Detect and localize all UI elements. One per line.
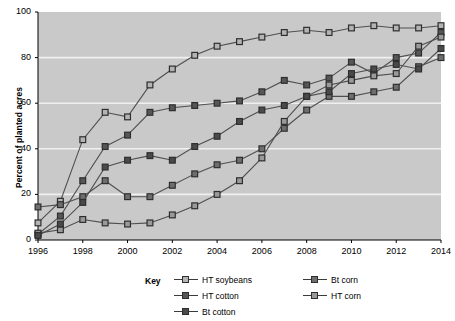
data-point bbox=[259, 155, 265, 161]
data-point bbox=[147, 109, 153, 115]
data-point bbox=[192, 52, 198, 58]
data-point bbox=[281, 78, 287, 84]
data-point bbox=[349, 59, 355, 65]
data-point bbox=[125, 157, 131, 163]
data-point bbox=[371, 89, 377, 95]
data-point bbox=[326, 75, 332, 81]
data-point bbox=[214, 100, 220, 106]
data-point bbox=[416, 66, 422, 72]
data-point bbox=[147, 153, 153, 159]
data-point bbox=[125, 132, 131, 138]
data-point bbox=[393, 71, 399, 77]
data-point bbox=[169, 66, 175, 72]
data-point bbox=[259, 107, 265, 113]
data-point bbox=[57, 213, 63, 219]
data-point bbox=[35, 233, 41, 239]
data-point bbox=[102, 178, 108, 184]
data-point bbox=[326, 30, 332, 36]
data-point bbox=[349, 93, 355, 99]
data-point bbox=[80, 178, 86, 184]
legend-marker-icon bbox=[303, 274, 327, 285]
data-point bbox=[393, 25, 399, 31]
chart-legend: Key HT soybeansBt cornHT cottonHT cornBt… bbox=[130, 272, 430, 318]
data-point bbox=[237, 39, 243, 45]
data-point bbox=[169, 157, 175, 163]
data-point bbox=[326, 82, 332, 88]
data-point bbox=[438, 34, 444, 40]
data-point bbox=[102, 220, 108, 226]
legend-item-ht-corn[interactable]: HT corn bbox=[303, 289, 361, 302]
data-point bbox=[80, 217, 86, 223]
data-point bbox=[393, 84, 399, 90]
chart-figure: Percent of planted acres 020406080100 19… bbox=[0, 0, 455, 321]
data-point bbox=[349, 25, 355, 31]
data-point bbox=[349, 78, 355, 84]
data-point bbox=[147, 220, 153, 226]
data-point bbox=[125, 221, 131, 227]
data-point bbox=[102, 109, 108, 115]
data-point bbox=[169, 212, 175, 218]
data-point bbox=[214, 43, 220, 49]
data-point bbox=[259, 34, 265, 40]
data-point bbox=[57, 221, 63, 227]
legend-marker-icon bbox=[174, 306, 198, 317]
data-point bbox=[169, 182, 175, 188]
data-point bbox=[304, 93, 310, 99]
data-point bbox=[438, 46, 444, 52]
data-point bbox=[281, 119, 287, 125]
data-point bbox=[393, 55, 399, 61]
data-point bbox=[80, 199, 86, 205]
data-point bbox=[416, 50, 422, 56]
data-point bbox=[57, 227, 63, 233]
legend-item-bt-corn[interactable]: Bt corn bbox=[303, 273, 358, 286]
data-point bbox=[416, 43, 422, 49]
data-point bbox=[438, 55, 444, 61]
data-point bbox=[237, 157, 243, 163]
legend-item-ht-soybeans[interactable]: HT soybeans bbox=[174, 273, 252, 286]
legend-marker-icon bbox=[174, 290, 198, 301]
data-point bbox=[281, 103, 287, 109]
data-point bbox=[438, 23, 444, 29]
data-point bbox=[371, 66, 377, 72]
data-point bbox=[326, 89, 332, 95]
data-point bbox=[147, 194, 153, 200]
data-point bbox=[214, 133, 220, 139]
data-point bbox=[281, 125, 287, 131]
data-point bbox=[393, 62, 399, 68]
data-point bbox=[35, 204, 41, 210]
data-point bbox=[259, 146, 265, 152]
data-point bbox=[102, 144, 108, 150]
plot-background bbox=[38, 12, 441, 240]
data-point bbox=[192, 203, 198, 209]
data-point bbox=[304, 82, 310, 88]
legend-item-ht-cotton[interactable]: HT cotton bbox=[174, 289, 239, 302]
data-point bbox=[192, 103, 198, 109]
legend-item-bt-cotton[interactable]: Bt cotton bbox=[174, 305, 236, 318]
data-point bbox=[237, 98, 243, 104]
data-point bbox=[416, 25, 422, 31]
data-point bbox=[237, 119, 243, 125]
data-point bbox=[214, 162, 220, 168]
data-point bbox=[259, 89, 265, 95]
data-point bbox=[349, 71, 355, 77]
data-point bbox=[237, 178, 243, 184]
data-point bbox=[281, 30, 287, 36]
legend-label: HT corn bbox=[331, 291, 361, 301]
legend-marker-icon bbox=[174, 274, 198, 285]
data-point bbox=[192, 171, 198, 177]
legend-marker-icon bbox=[303, 290, 327, 301]
data-point bbox=[192, 144, 198, 150]
legend-label: Bt cotton bbox=[202, 307, 236, 317]
legend-label: HT cotton bbox=[202, 291, 239, 301]
legend-label: HT soybeans bbox=[202, 275, 252, 285]
data-point bbox=[125, 194, 131, 200]
data-point bbox=[304, 27, 310, 33]
legend-title: Key bbox=[145, 276, 161, 286]
data-point bbox=[214, 192, 220, 198]
data-point bbox=[80, 137, 86, 143]
data-point bbox=[169, 105, 175, 111]
data-point bbox=[125, 114, 131, 120]
legend-label: Bt corn bbox=[331, 275, 358, 285]
data-point bbox=[147, 82, 153, 88]
data-point bbox=[304, 107, 310, 113]
